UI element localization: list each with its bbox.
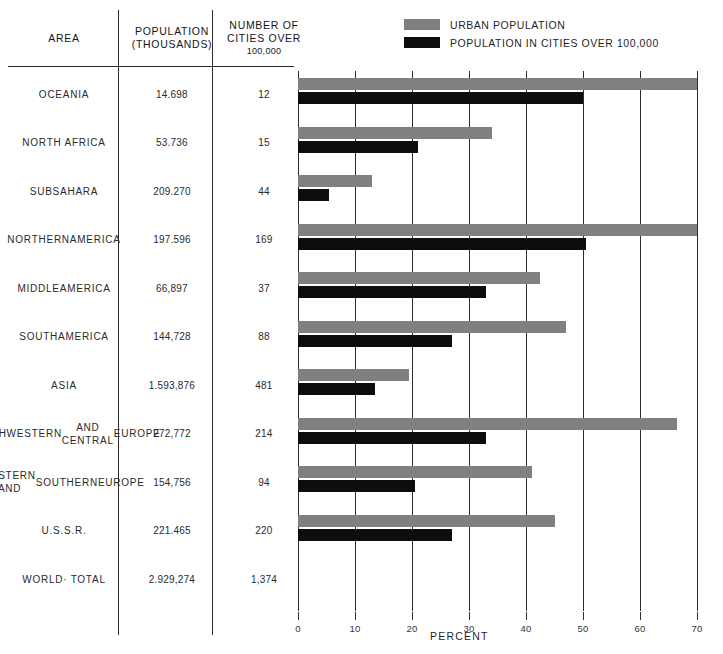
cell-cities: 44 [224, 168, 304, 214]
bar-urban-population [298, 78, 697, 90]
header-rule [8, 66, 294, 67]
cell-population: 272,772 [122, 411, 222, 457]
cell-cities: 1,374 [224, 556, 304, 602]
chart-page: URBAN POPULATION POPULATION IN CITIES OV… [0, 0, 723, 654]
column-header-population: POPULATION (THOUSANDS) [122, 25, 222, 51]
cell-cities: 88 [224, 314, 304, 360]
cell-cities: 12 [224, 71, 304, 117]
x-axis-tick [412, 612, 413, 620]
x-axis-tick-label: 0 [283, 623, 313, 634]
bar-urban-population [298, 466, 532, 478]
bar-urban-population [298, 418, 677, 430]
cell-area: ASIA [8, 362, 120, 408]
cell-cities: 169 [224, 217, 304, 263]
x-axis-tick [583, 612, 584, 620]
cell-area: SUBSAHARA [8, 168, 120, 214]
x-axis-tick [697, 612, 698, 620]
x-axis-tick-label: 60 [625, 623, 655, 634]
table-row: OCEANIA14.69812 [8, 71, 293, 117]
gridline [697, 71, 698, 611]
cell-population: 144,728 [122, 314, 222, 360]
table-row: NORTHWESTERNAND CENTRALEUROPE272,772214 [8, 411, 293, 457]
cell-area: NORTHWESTERNAND CENTRALEUROPE [8, 411, 120, 457]
cell-population: 53.736 [122, 120, 222, 166]
cell-area: OCEANIA [8, 71, 120, 117]
gridline [640, 71, 641, 611]
gridline [526, 71, 527, 611]
bar-cities-population [298, 141, 418, 153]
column-header-area: AREA [8, 32, 120, 45]
x-axis-tick-label: 20 [397, 623, 427, 634]
x-axis-tick [355, 612, 356, 620]
bar-urban-population [298, 175, 372, 187]
table-row: EASTERN ANDSOUTHERNEUROPE154,75694 [8, 459, 293, 505]
cell-cities: 220 [224, 508, 304, 554]
bar-cities-population [298, 383, 375, 395]
column-header-cities-line3: 100,000 [224, 45, 304, 58]
cell-area: U.S.S.R. [8, 508, 120, 554]
cell-cities: 15 [224, 120, 304, 166]
legend-swatch-cities-icon [404, 37, 440, 48]
legend-label-cities: POPULATION IN CITIES OVER 100,000 [450, 37, 659, 49]
cell-area: EASTERN ANDSOUTHERNEUROPE [8, 459, 120, 505]
table-row: NORTH AFRICA53.73615 [8, 120, 293, 166]
cell-area: SOUTHAMERICA [8, 314, 120, 360]
table-row: MIDDLEAMERICA66,89737 [8, 265, 293, 311]
bar-cities-population [298, 480, 415, 492]
table-row: U.S.S.R.221.465220 [8, 508, 293, 554]
column-header-population-line1: POPULATION [122, 25, 222, 38]
column-header-cities: NUMBER OF CITIES OVER 100,000 [224, 19, 304, 58]
legend-item-urban: URBAN POPULATION [404, 17, 719, 32]
chart-legend: URBAN POPULATION POPULATION IN CITIES OV… [404, 17, 719, 53]
table-row: SOUTHAMERICA144,72888 [8, 314, 293, 360]
x-axis-tick-label: 40 [511, 623, 541, 634]
x-axis-tick [526, 612, 527, 620]
legend-label-urban: URBAN POPULATION [450, 19, 565, 31]
bar-cities-population [298, 286, 486, 298]
cell-population: 2.929,274 [122, 556, 222, 602]
x-axis-tick [640, 612, 641, 620]
column-header-cities-line2: CITIES OVER [224, 32, 304, 45]
cell-population: 154,756 [122, 459, 222, 505]
x-axis-tick-label: 70 [682, 623, 712, 634]
bar-cities-population [298, 432, 486, 444]
table-row: NORTHERNAMERICA197.596169 [8, 217, 293, 263]
x-axis-tick-label: 10 [340, 623, 370, 634]
cell-cities: 94 [224, 459, 304, 505]
cell-population: 14.698 [122, 71, 222, 117]
bar-cities-population [298, 92, 583, 104]
gridline [583, 71, 584, 611]
bar-urban-population [298, 272, 540, 284]
table-row: ASIA1.593,876481 [8, 362, 293, 408]
cell-area: NORTH AFRICA [8, 120, 120, 166]
cell-population: 209.270 [122, 168, 222, 214]
x-axis-tick [469, 612, 470, 620]
cell-area: NORTHERNAMERICA [8, 217, 120, 263]
legend-swatch-urban-icon [404, 19, 440, 30]
bar-urban-population [298, 127, 492, 139]
chart-x-axis-title: PERCENT [430, 630, 489, 642]
bar-urban-population [298, 321, 566, 333]
cell-population: 197.596 [122, 217, 222, 263]
bar-urban-population [298, 369, 409, 381]
bar-cities-population [298, 335, 452, 347]
cell-population: 66,897 [122, 265, 222, 311]
cell-area: WORLD· TOTAL [8, 556, 120, 602]
legend-item-cities: POPULATION IN CITIES OVER 100,000 [404, 35, 719, 50]
cell-cities: 214 [224, 411, 304, 457]
table-row: SUBSAHARA209.27044 [8, 168, 293, 214]
cell-cities: 481 [224, 362, 304, 408]
gridline [469, 71, 470, 611]
cell-population: 1.593,876 [122, 362, 222, 408]
cell-area: MIDDLEAMERICA [8, 265, 120, 311]
column-header-population-line2: (THOUSANDS) [122, 38, 222, 51]
x-axis-tick [298, 612, 299, 620]
bar-urban-population [298, 515, 555, 527]
cell-population: 221.465 [122, 508, 222, 554]
x-axis-tick-label: 50 [568, 623, 598, 634]
bar-cities-population [298, 238, 586, 250]
table-row: WORLD· TOTAL2.929,2741,374 [8, 556, 293, 602]
bar-cities-population [298, 529, 452, 541]
table-header: AREA POPULATION (THOUSANDS) NUMBER OF CI… [8, 10, 293, 66]
bar-urban-population [298, 224, 697, 236]
